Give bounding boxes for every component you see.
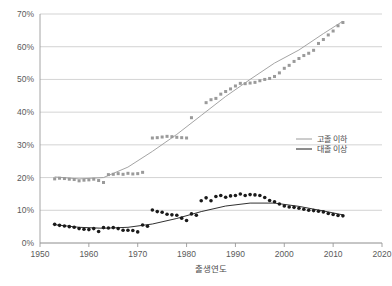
data-point	[293, 60, 296, 63]
x-axis-tick-label: 1950	[31, 249, 50, 259]
data-point	[263, 196, 267, 200]
data-point	[278, 202, 282, 206]
data-point	[327, 33, 330, 36]
series-points	[53, 21, 344, 184]
data-point	[337, 24, 340, 27]
legend-item-label: 대졸 이상	[317, 144, 348, 154]
y-axis-tick-label: 50%	[17, 74, 34, 84]
data-point	[180, 136, 183, 139]
data-point	[224, 90, 227, 93]
x-axis-tick-label: 1970	[128, 249, 147, 259]
data-point	[161, 136, 164, 139]
data-point	[175, 136, 178, 139]
data-point	[273, 75, 276, 78]
data-point	[87, 228, 91, 232]
data-point	[170, 213, 174, 217]
data-point	[307, 208, 311, 212]
data-point	[229, 87, 232, 90]
data-point	[312, 49, 315, 52]
data-point	[131, 229, 135, 233]
data-point	[102, 181, 105, 184]
data-point	[136, 230, 140, 234]
data-point	[336, 214, 340, 218]
data-point	[117, 172, 120, 175]
data-point	[165, 212, 169, 216]
data-point	[151, 136, 154, 139]
x-axis-tick-label: 1990	[226, 249, 245, 259]
data-point	[263, 78, 266, 81]
y-axis-tick-label: 30%	[17, 140, 34, 150]
data-point	[332, 30, 335, 33]
data-point	[72, 226, 76, 230]
data-point	[273, 200, 277, 204]
data-point	[121, 228, 125, 232]
data-point	[239, 192, 243, 196]
data-point	[229, 194, 233, 198]
data-point	[249, 82, 252, 85]
x-axis-tick-label: 2020	[373, 249, 392, 259]
data-point	[68, 225, 72, 229]
data-point	[97, 179, 100, 182]
data-point	[283, 67, 286, 70]
data-point	[258, 194, 262, 198]
y-axis-tick-label: 0%	[22, 238, 35, 248]
data-point	[112, 173, 115, 176]
data-point	[253, 81, 256, 84]
data-point	[97, 230, 101, 234]
data-point	[317, 42, 320, 45]
data-point	[248, 193, 252, 197]
data-point	[82, 179, 85, 182]
data-point	[331, 213, 335, 217]
data-point	[78, 179, 81, 182]
data-point	[156, 136, 159, 139]
data-point	[180, 216, 184, 220]
y-axis-tick-label: 10%	[17, 205, 34, 215]
data-point	[185, 136, 188, 139]
data-point	[209, 199, 213, 203]
data-point	[122, 173, 125, 176]
data-point	[111, 226, 115, 230]
data-point	[58, 224, 62, 228]
data-point	[243, 194, 247, 198]
data-point	[317, 209, 321, 213]
data-point	[219, 93, 222, 96]
data-point	[287, 205, 291, 209]
data-point	[326, 212, 330, 216]
data-point	[166, 135, 169, 138]
data-point	[73, 178, 76, 181]
data-point	[126, 172, 129, 175]
data-point	[278, 71, 281, 74]
data-point	[297, 57, 300, 60]
data-point	[126, 228, 130, 232]
data-point	[210, 98, 213, 101]
trend-line	[55, 21, 343, 179]
data-point	[244, 82, 247, 85]
data-point	[234, 84, 237, 87]
data-point	[239, 82, 242, 85]
data-point	[63, 224, 67, 228]
data-point	[205, 101, 208, 104]
data-point	[58, 177, 61, 180]
data-point	[312, 209, 316, 213]
data-point	[185, 219, 189, 223]
data-point	[292, 206, 296, 210]
legend-item-label: 고졸 이하	[317, 134, 348, 144]
data-point	[219, 194, 223, 198]
x-axis-tick-label: 1980	[177, 249, 196, 259]
data-point	[341, 21, 344, 24]
data-point	[268, 77, 271, 80]
x-axis-title: 출생연도	[195, 264, 227, 274]
data-point	[107, 173, 110, 176]
data-point	[63, 177, 66, 180]
data-point	[116, 227, 120, 231]
data-point	[204, 196, 208, 200]
data-point	[302, 208, 306, 212]
y-axis-tick-label: 40%	[17, 107, 34, 117]
data-point	[214, 195, 218, 199]
data-point	[190, 116, 193, 119]
x-axis-tick-label: 1960	[79, 249, 98, 259]
data-point	[214, 97, 217, 100]
data-point	[341, 214, 345, 218]
data-point	[302, 54, 305, 57]
data-point	[53, 177, 56, 180]
